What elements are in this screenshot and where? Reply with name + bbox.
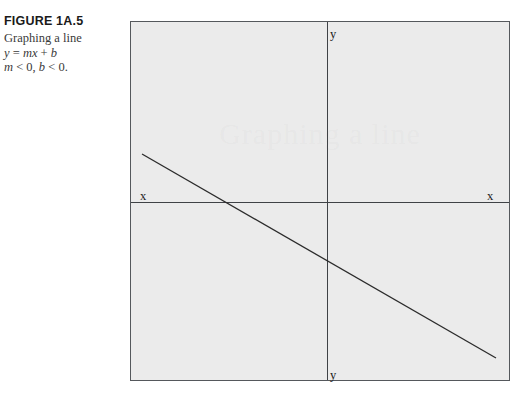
condition-m-var: m (4, 60, 13, 74)
sloped-line (142, 154, 496, 358)
axis-label-x-right: x (487, 190, 493, 203)
axis-label-x-left: x (140, 190, 146, 203)
line-plot (131, 22, 509, 380)
figure-conditions: m < 0, b < 0. (4, 60, 124, 75)
plot-area: Graphing a line y y x x (131, 22, 509, 380)
figure-number: FIGURE 1A.5 (4, 14, 124, 29)
equation-plus: + (37, 46, 50, 60)
figure-caption: FIGURE 1A.5 Graphing a line y = mx + b m… (4, 14, 124, 75)
graph-panel: Graphing a line y y x x (130, 21, 510, 381)
condition-b-text: < 0. (45, 60, 68, 74)
condition-m-text: < 0, (13, 60, 39, 74)
figure-equation: y = mx + b (4, 46, 124, 61)
axis-label-y-bottom: y (330, 369, 336, 382)
equation-b: b (51, 46, 57, 60)
figure-description: Graphing a line (4, 31, 124, 46)
equation-equals: = (10, 46, 23, 60)
axis-label-y-top: y (330, 28, 336, 41)
equation-m: m (23, 46, 32, 60)
